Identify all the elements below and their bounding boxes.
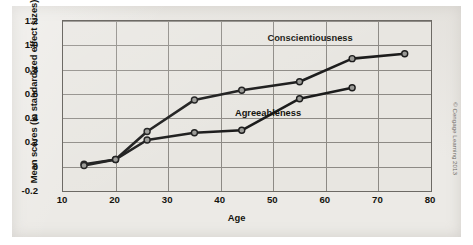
data-point-marker [297,96,303,102]
data-point-marker [239,87,245,93]
x-tick-label: 40 [200,194,240,205]
data-point-marker [144,137,150,143]
series-label-agreeableness: Agreeableness [235,108,301,118]
data-point-marker [113,156,119,162]
series-layer [63,21,431,191]
plot-area: ConscientiousnessAgreeableness [62,20,432,192]
x-tick-label: 10 [42,194,82,205]
x-tick-label: 80 [410,194,450,205]
data-point-marker [349,85,355,91]
y-tick-label: -0.2 [0,185,38,196]
y-tick-label: 0.2 [0,136,38,147]
y-tick-label: 0.8 [0,63,38,74]
y-tick-label: 0.6 [0,87,38,98]
data-point-marker [81,163,87,169]
y-tick-label: 1.2 [0,15,38,26]
copyright-credit: © Cengage Learning 2013 [452,89,459,189]
y-tick-label: 0.4 [0,112,38,123]
y-tick-label: 0 [0,160,38,171]
data-point-marker [239,127,245,133]
series-line [84,88,352,166]
figure-container: Mean scores (in standardized effect size… [0,0,473,245]
y-tick-label: 1.0 [0,39,38,50]
data-point-marker [191,97,197,103]
x-axis-title: Age [0,212,473,223]
data-point-marker [349,56,355,62]
x-tick-label: 70 [357,194,397,205]
data-point-marker [191,130,197,136]
x-tick-label: 50 [252,194,292,205]
x-tick-label: 30 [147,194,187,205]
data-point-marker [144,129,150,135]
data-point-marker [402,51,408,57]
data-point-marker [297,79,303,85]
x-tick-label: 60 [305,194,345,205]
x-tick-label: 20 [95,194,135,205]
series-label-conscientiousness: Conscientiousness [267,33,352,43]
